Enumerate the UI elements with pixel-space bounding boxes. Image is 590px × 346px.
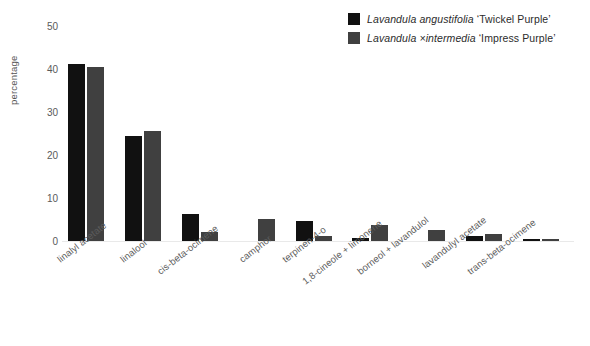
bar [542, 239, 559, 241]
y-tick-label: 0 [18, 236, 58, 247]
bar [523, 239, 540, 241]
bar [296, 221, 313, 241]
bar [182, 214, 199, 241]
bar [485, 234, 502, 241]
bar [315, 236, 332, 241]
y-tick-label: 10 [18, 193, 58, 204]
bar [144, 131, 161, 241]
x-axis-baseline [62, 241, 574, 242]
bar [466, 236, 483, 241]
bar [87, 67, 104, 241]
bar [352, 238, 369, 241]
y-tick-label: 30 [18, 107, 58, 118]
y-axis-ticks: 50403020100 [10, 0, 58, 346]
legend-entry[interactable]: Lavandula angustifolia ‘Twickel Purple’ [348, 12, 556, 26]
bar [68, 64, 85, 241]
y-tick-label: 50 [18, 21, 58, 32]
bar [125, 136, 142, 241]
y-tick-label: 40 [18, 64, 58, 75]
legend-label: Lavandula angustifolia ‘Twickel Purple’ [367, 13, 551, 25]
y-tick-label: 20 [18, 150, 58, 161]
plot-area [62, 26, 574, 241]
bar [428, 230, 445, 241]
bar-chart: Lavandula angustifolia ‘Twickel Purple’L… [0, 0, 590, 346]
bar [371, 225, 388, 241]
legend-swatch-icon [348, 13, 360, 25]
bar [201, 232, 218, 241]
bar [258, 219, 275, 241]
